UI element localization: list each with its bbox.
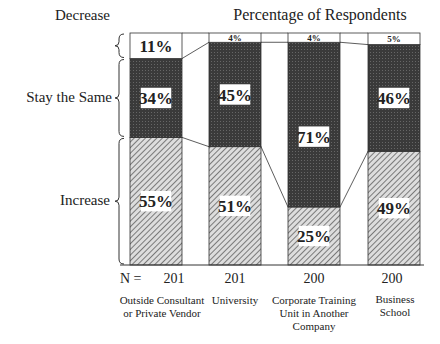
bar-segment-stay-the-same: [288, 42, 340, 207]
data-label: 71%: [297, 128, 331, 147]
data-label: 11%: [139, 37, 172, 56]
x-label-line: University: [195, 294, 275, 307]
bars: 55%34%11%51%45%4%25%71%4%49%46%5%: [130, 33, 420, 265]
chart-root: Percentage of Respondents Decrease Stay …: [0, 0, 440, 344]
n-value-3: 200: [284, 271, 344, 287]
x-label-line: Corporate Training: [264, 294, 364, 307]
data-label: 4%: [307, 33, 321, 43]
data-label: 55%: [139, 192, 173, 211]
x-label-line: Company: [264, 320, 364, 333]
n-prefix: N =: [120, 271, 142, 287]
n-value-1: 201: [144, 271, 204, 287]
x-label-corporate: Corporate Training Unit in Another Compa…: [264, 294, 364, 333]
data-label: 45%: [218, 86, 252, 105]
data-label: 5%: [387, 34, 401, 44]
data-label: 46%: [377, 89, 411, 108]
n-value-2: 201: [205, 271, 265, 287]
x-label-line: or Private Vendor: [112, 307, 212, 320]
data-label: 51%: [218, 197, 252, 216]
x-label-business-school: Business School: [355, 293, 435, 319]
data-label: 25%: [297, 227, 331, 246]
x-label-line: Unit in Another: [264, 307, 364, 320]
x-label-university: University: [195, 294, 275, 307]
x-label-line: Business: [355, 293, 435, 306]
data-label: 49%: [377, 199, 411, 218]
data-label: 4%: [228, 33, 242, 43]
data-label: 34%: [139, 89, 173, 108]
n-value-4: 200: [362, 271, 422, 287]
x-label-line: School: [355, 306, 435, 319]
legend-braces: [115, 34, 124, 264]
